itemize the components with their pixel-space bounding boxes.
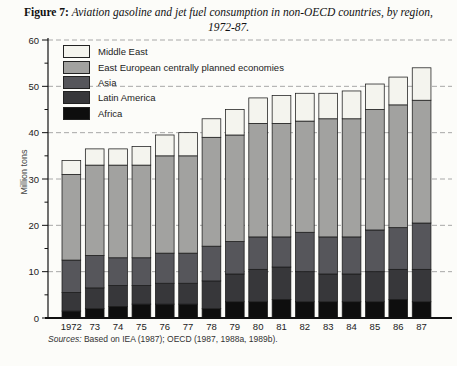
- bar-segment: [412, 223, 431, 269]
- bar-segment: [109, 258, 128, 286]
- legend-item: Africa: [63, 106, 284, 121]
- y-axis-label: Million tons: [19, 149, 29, 195]
- bar-segment: [132, 286, 151, 305]
- bar-segment: [179, 283, 198, 304]
- bar-segment: [85, 165, 104, 255]
- x-tick-label: 79: [230, 321, 241, 332]
- bar-segment: [272, 267, 291, 299]
- bar-segment: [202, 246, 221, 281]
- legend-item: Middle East: [63, 44, 284, 59]
- bar-segment: [366, 302, 385, 318]
- bar-segment: [225, 274, 244, 302]
- bar-segment: [319, 119, 338, 237]
- bar-segment: [296, 232, 315, 271]
- legend-label: East European centrally planned economie…: [98, 62, 284, 73]
- bar-segment: [225, 135, 244, 242]
- x-tick-label: 77: [183, 321, 194, 332]
- bar-segment: [132, 165, 151, 258]
- x-tick-label: 73: [89, 321, 100, 332]
- bar-segment: [412, 269, 431, 301]
- bar-segment: [132, 147, 151, 166]
- bar-segment: [109, 306, 128, 318]
- bar-segment: [342, 237, 361, 274]
- bar-segment: [179, 156, 198, 253]
- bar-segment: [179, 253, 198, 283]
- bar-segment: [109, 286, 128, 307]
- x-tick-label: 74: [113, 321, 124, 332]
- bar-segment: [342, 91, 361, 119]
- bar-segment: [319, 274, 338, 302]
- legend-item: Asia: [63, 75, 284, 90]
- bar-segment: [62, 174, 81, 260]
- bar-segment: [296, 121, 315, 232]
- bar-segment: [366, 230, 385, 272]
- bar-segment: [155, 253, 174, 283]
- legend-swatch: [63, 107, 90, 120]
- bar-segment: [272, 237, 291, 267]
- sources-note: Sources: Based on IEA (1987); OECD (1987…: [48, 334, 278, 344]
- bar-segment: [249, 269, 268, 301]
- sources-prefix: Sources:: [48, 334, 82, 344]
- bar-segment: [85, 255, 104, 287]
- bar-segment: [389, 105, 408, 228]
- bar-segment: [132, 258, 151, 286]
- bar-segment: [249, 302, 268, 318]
- bar-segment: [85, 288, 104, 309]
- bar-segment: [155, 283, 174, 304]
- x-tick-label: 87: [416, 321, 427, 332]
- x-tick-label: 81: [276, 321, 287, 332]
- bar-segment: [249, 123, 268, 237]
- bar-segment: [366, 272, 385, 302]
- bar-segment: [389, 299, 408, 318]
- x-tick-label: 83: [323, 321, 334, 332]
- x-tick-label: 78: [206, 321, 217, 332]
- legend-item: Latin America: [63, 90, 284, 105]
- bar-segment: [249, 237, 268, 269]
- bar-segment: [62, 160, 81, 174]
- bar-segment: [366, 110, 385, 230]
- bar-segment: [179, 133, 198, 156]
- bar-segment: [85, 309, 104, 318]
- legend-label: Middle East: [98, 46, 148, 57]
- bar-segment: [412, 302, 431, 318]
- bar-segment: [202, 119, 221, 138]
- bar-segment: [342, 119, 361, 237]
- legend-label: Latin America: [98, 92, 156, 103]
- legend-swatch: [63, 91, 90, 104]
- bar-segment: [319, 93, 338, 118]
- bar-segment: [225, 242, 244, 274]
- bar-segment: [155, 156, 174, 253]
- figure-7-chart-page: Figure 7: Aviation gasoline and jet fuel…: [0, 0, 457, 366]
- x-tick-label: 80: [253, 321, 264, 332]
- bar-segment: [272, 123, 291, 237]
- bar-segment: [389, 228, 408, 270]
- legend-swatch: [63, 45, 90, 58]
- bar-segment: [132, 304, 151, 318]
- bar-segment: [202, 281, 221, 309]
- chart-legend: Middle EastEast European centrally plann…: [63, 44, 284, 121]
- bar-segment: [296, 93, 315, 121]
- bar-segment: [389, 269, 408, 299]
- x-tick-label: 82: [300, 321, 311, 332]
- y-tick-label: 30: [28, 174, 39, 185]
- sources-text: Based on IEA (1987); OECD (1987, 1988a, …: [84, 334, 278, 344]
- x-tick-label: 86: [393, 321, 404, 332]
- bar-segment: [319, 302, 338, 318]
- x-tick-label: 84: [346, 321, 357, 332]
- bar-segment: [109, 149, 128, 165]
- bar-segment: [62, 311, 81, 318]
- bar-segment: [179, 304, 198, 318]
- bar-segment: [202, 309, 221, 318]
- legend-swatch: [63, 61, 90, 74]
- x-tick-label: 85: [370, 321, 381, 332]
- bar-segment: [296, 272, 315, 302]
- bar-segment: [225, 302, 244, 318]
- bar-segment: [296, 302, 315, 318]
- legend-label: Africa: [98, 108, 122, 119]
- y-tick-label: 60: [28, 35, 39, 46]
- bar-segment: [342, 302, 361, 318]
- bar-segment: [155, 135, 174, 156]
- x-tick-label: 75: [136, 321, 147, 332]
- y-tick-label: 10: [28, 266, 39, 277]
- y-tick-label: 0: [34, 313, 39, 324]
